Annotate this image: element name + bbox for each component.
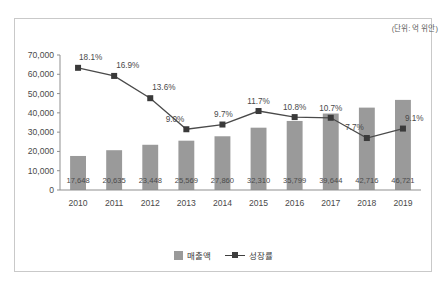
line-data-point xyxy=(219,122,225,128)
bar-value-label: 35,799 xyxy=(283,176,306,185)
line-marker-icon xyxy=(225,251,245,260)
line-data-point xyxy=(147,95,153,101)
line-data-point xyxy=(364,135,370,141)
legend-item-growth-rate[interactable]: 성장률 xyxy=(225,249,273,261)
legend-label-revenue: 매출액 xyxy=(187,249,211,261)
x-tick-label: 2010 xyxy=(68,198,87,208)
line-data-point xyxy=(75,65,81,71)
bar-value-label: 20,635 xyxy=(103,176,126,185)
x-tick-label: 2019 xyxy=(393,198,412,208)
y-tick-label: 0 xyxy=(49,185,54,195)
bar-value-label: 39,644 xyxy=(319,176,342,185)
x-tick-label: 2017 xyxy=(321,198,340,208)
y-axis: 010,00020,00030,00040,00050,00060,00070,… xyxy=(28,50,60,195)
growth-rate-label: 10.7% xyxy=(319,104,342,113)
growth-rate-label: 16.9% xyxy=(116,61,139,70)
line-data-point xyxy=(183,126,189,132)
growth-rate-label: 18.1% xyxy=(79,53,102,62)
y-tick-label: 50,000 xyxy=(28,89,55,99)
x-tick-label: 2016 xyxy=(285,198,304,208)
x-axis: 2010201120122013201420152016201720182019 xyxy=(60,190,421,208)
line-data-point xyxy=(400,126,406,132)
y-tick-label: 10,000 xyxy=(28,166,55,176)
line-data-point xyxy=(111,73,117,79)
bar-value-label: 17,648 xyxy=(66,176,89,185)
legend-item-revenue[interactable]: 매출액 xyxy=(174,249,211,261)
x-tick-label: 2013 xyxy=(177,198,196,208)
y-tick-label: 30,000 xyxy=(28,127,55,137)
bar-swatch-icon xyxy=(174,251,183,260)
bar-value-label: 32,310 xyxy=(247,176,270,185)
bar-value-label: 46,721 xyxy=(391,176,414,185)
y-tick-label: 20,000 xyxy=(28,146,55,156)
chart-container: (단위: 억 위안) 010,00020,00030,00040,00050,0… xyxy=(0,0,446,297)
line-data-point xyxy=(292,114,298,120)
growth-rate-label: 9.0% xyxy=(166,115,185,124)
x-tick-label: 2011 xyxy=(105,198,124,208)
growth-rate-label: 10.8% xyxy=(283,103,306,112)
line-data-point xyxy=(328,115,334,121)
growth-rate-label: 7.7% xyxy=(345,123,364,132)
x-tick-label: 2012 xyxy=(141,198,160,208)
y-tick-label: 40,000 xyxy=(28,108,55,118)
x-tick-label: 2018 xyxy=(357,198,376,208)
growth-rate-label: 9.1% xyxy=(405,114,424,123)
y-tick-label: 70,000 xyxy=(28,50,55,60)
bar-value-label: 42,716 xyxy=(355,176,378,185)
bar-value-label: 25,569 xyxy=(175,176,198,185)
growth-rate-label: 9.7% xyxy=(214,110,233,119)
growth-rate-label: 13.6% xyxy=(152,83,175,92)
legend-label-growth-rate: 성장률 xyxy=(249,249,273,261)
bar-value-label: 23,448 xyxy=(139,176,162,185)
chart-legend: 매출액 성장률 xyxy=(0,249,446,261)
bar-value-labels: 17,64820,63523,44825,56927,86032,31035,7… xyxy=(66,176,414,185)
x-tick-label: 2014 xyxy=(213,198,232,208)
bar-value-label: 27,860 xyxy=(211,176,234,185)
x-tick-label: 2015 xyxy=(249,198,268,208)
growth-rate-label: 11.7% xyxy=(247,97,270,106)
line-data-point xyxy=(256,108,262,114)
y-tick-label: 60,000 xyxy=(28,69,55,79)
